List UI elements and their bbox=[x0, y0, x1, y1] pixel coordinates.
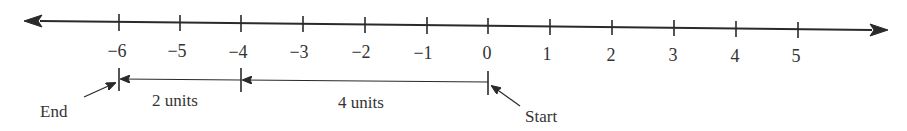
number-line-axis bbox=[24, 15, 888, 36]
tick-label: −3 bbox=[289, 42, 308, 62]
tick-label: −5 bbox=[167, 41, 186, 61]
number-line-diagram: −6 −5 −4 −3 −2 −1 0 1 2 3 4 5 2 units 4 … bbox=[0, 0, 907, 131]
tick-label: 4 bbox=[731, 46, 740, 66]
tick-label: −1 bbox=[413, 43, 432, 63]
segment-4-units bbox=[243, 80, 488, 82]
right-arrow-icon bbox=[870, 24, 888, 36]
end-label: End bbox=[40, 102, 68, 121]
tick-label: −2 bbox=[351, 42, 370, 62]
annotations: End Start bbox=[40, 0, 557, 126]
tick-label: 2 bbox=[607, 45, 616, 65]
start-pointer-arrow bbox=[492, 86, 520, 106]
tick-labels: −6 −5 −4 −3 −2 −1 0 1 2 3 4 5 bbox=[107, 41, 800, 66]
tick-label: 3 bbox=[669, 45, 678, 65]
segment-2-units bbox=[121, 79, 241, 80]
start-label: Start bbox=[525, 107, 557, 126]
segment-label: 4 units bbox=[338, 93, 384, 112]
end-pointer-arrow bbox=[84, 83, 115, 97]
left-arrow-icon bbox=[24, 15, 42, 27]
tick-label: 1 bbox=[543, 44, 552, 64]
tick-label: 0 bbox=[483, 43, 492, 63]
movement-segments: 2 units 4 units bbox=[119, 68, 488, 112]
tick-label: −6 bbox=[107, 41, 126, 61]
tick-label: −4 bbox=[228, 42, 247, 62]
segment-label: 2 units bbox=[152, 91, 198, 110]
tick-label: 5 bbox=[792, 46, 801, 66]
